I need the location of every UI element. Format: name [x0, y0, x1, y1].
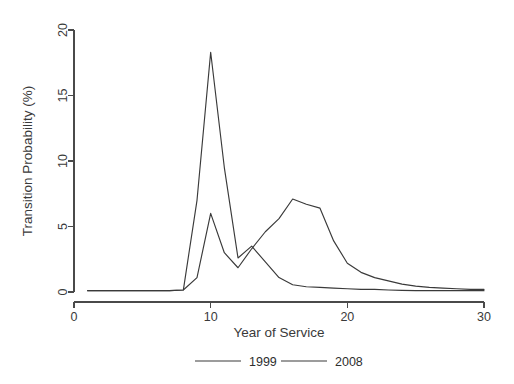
- y-tick-label: 5: [56, 223, 70, 230]
- x-axis-group: 0102030: [71, 302, 491, 324]
- series-group: [88, 52, 484, 290]
- x-tick-label: 0: [71, 310, 78, 324]
- x-tick-label: 10: [204, 310, 218, 324]
- y-tick-label: 10: [56, 154, 70, 168]
- x-axis-title: Year of Service: [233, 325, 324, 340]
- y-tick-group: 05101520: [56, 23, 75, 295]
- x-tick-group: 0102030: [71, 302, 491, 324]
- chart-legend: 19992008: [195, 355, 363, 369]
- series-line-2008: [88, 199, 484, 291]
- y-tick-label: 0: [56, 288, 70, 295]
- x-tick-label: 30: [477, 310, 491, 324]
- x-tick-label: 20: [340, 310, 354, 324]
- y-tick-label: 15: [56, 89, 70, 103]
- legend-label-1999: 1999: [249, 355, 277, 369]
- transition-probability-line-chart: 05101520 0102030 Year of Service Transit…: [0, 0, 514, 384]
- y-tick-label: 20: [56, 23, 70, 37]
- y-axis-title: Transition Probability (%): [20, 86, 35, 236]
- y-axis-group: 05101520: [56, 23, 75, 295]
- series-line-1999: [88, 52, 484, 290]
- legend-label-2008: 2008: [335, 355, 363, 369]
- chart-figure: 05101520 0102030 Year of Service Transit…: [0, 0, 514, 384]
